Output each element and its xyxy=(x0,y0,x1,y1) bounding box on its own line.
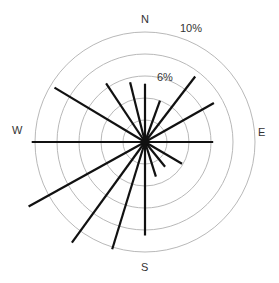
direction-spokes xyxy=(29,77,214,250)
spoke-sw xyxy=(72,142,145,243)
compass-label-south: S xyxy=(141,262,148,273)
spoke-wnw xyxy=(55,88,146,142)
ring-label-6-percent: 6% xyxy=(157,72,173,83)
compass-label-east: E xyxy=(258,127,265,138)
ring-label-10-percent: 10% xyxy=(180,23,202,34)
compass-label-west: W xyxy=(12,125,22,136)
wind-rose-plot xyxy=(0,0,279,283)
compass-label-north: N xyxy=(141,14,149,25)
wind-rose-chart: N E S W 10% 6% xyxy=(0,0,279,283)
spoke-nnw xyxy=(130,82,145,142)
center-hub xyxy=(142,139,148,145)
